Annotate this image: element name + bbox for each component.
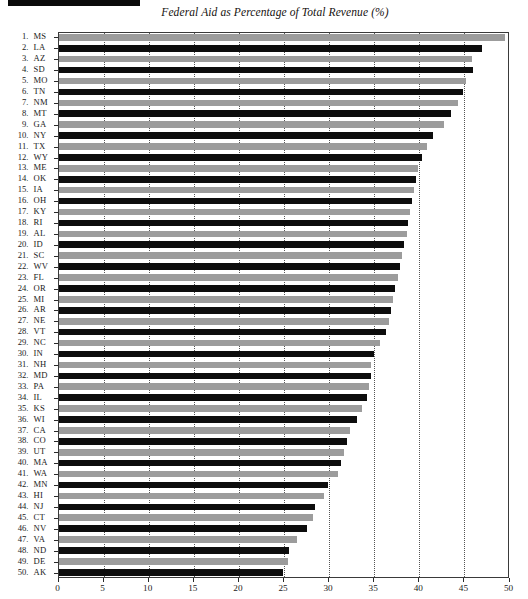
state-abbr-label: CA <box>34 425 58 435</box>
bar-row <box>59 251 510 260</box>
rank-label: 13. <box>12 162 29 172</box>
rank-label: 49. <box>12 556 29 566</box>
x-tick-label-35: 35 <box>369 583 378 593</box>
y-axis-tick-KS: 35.KS <box>0 403 58 412</box>
y-axis-tick-CA: 37.CA <box>0 425 58 434</box>
y-axis-tick-VA: 47.VA <box>0 534 58 543</box>
bar-row <box>59 393 510 402</box>
state-abbr-label: WI <box>34 414 58 424</box>
bar-MS <box>59 34 505 41</box>
rank-label: 34. <box>12 392 29 402</box>
bar-OH <box>59 198 413 205</box>
bar-row <box>59 208 510 217</box>
x-tick-label-25: 25 <box>278 583 287 593</box>
x-tick-label-30: 30 <box>324 583 333 593</box>
rank-label: 38. <box>12 435 29 445</box>
state-abbr-label: WV <box>34 261 58 271</box>
rank-label: 46. <box>12 523 29 533</box>
bar-row <box>59 546 510 555</box>
rank-label: 9. <box>12 119 29 129</box>
state-abbr-label: MA <box>34 457 58 467</box>
rank-label: 33. <box>12 381 29 391</box>
y-axis-tick-AL: 19.AL <box>0 229 58 238</box>
bar-CO <box>59 438 348 445</box>
bar-row <box>59 66 510 75</box>
bar-VA <box>59 536 297 543</box>
bar-row <box>59 459 510 468</box>
bar-IL <box>59 394 367 401</box>
rank-label: 2. <box>12 42 29 52</box>
y-axis-tick-DE: 49.DE <box>0 556 58 565</box>
bar-row <box>59 382 510 391</box>
y-axis-tick-TN: 6.TN <box>0 87 58 96</box>
y-axis-tick-NH: 31.NH <box>0 360 58 369</box>
bar-NH <box>59 362 372 369</box>
state-abbr-label: OK <box>34 173 58 183</box>
y-axis-tick-TX: 11.TX <box>0 141 58 150</box>
rank-label: 1. <box>12 31 29 41</box>
y-axis-tick-ME: 13.ME <box>0 163 58 172</box>
y-axis-tick-NY: 10.NY <box>0 130 58 139</box>
rank-label: 21. <box>12 250 29 260</box>
bar-PA <box>59 383 369 390</box>
state-abbr-label: MI <box>34 294 58 304</box>
x-tick-label-45: 45 <box>459 583 468 593</box>
rank-label: 7. <box>12 97 29 107</box>
state-abbr-label: MS <box>34 31 58 41</box>
rank-label: 47. <box>12 534 29 544</box>
y-axis-tick-GA: 9.GA <box>0 119 58 128</box>
bar-TX <box>59 143 427 150</box>
bar-NJ <box>59 504 315 511</box>
bar-row <box>59 55 510 64</box>
state-abbr-label: IN <box>34 348 58 358</box>
state-abbr-label: SC <box>34 250 58 260</box>
state-abbr-label: NJ <box>34 501 58 511</box>
plot-area <box>58 32 509 578</box>
rank-label: 36. <box>12 414 29 424</box>
bar-row <box>59 404 510 413</box>
rank-label: 15. <box>12 184 29 194</box>
bar-row <box>59 262 510 271</box>
x-tick-50 <box>509 578 510 582</box>
bar-DE <box>59 558 288 565</box>
x-tick-label-20: 20 <box>233 583 242 593</box>
state-abbr-label: VA <box>34 534 58 544</box>
rank-label: 28. <box>12 326 29 336</box>
state-abbr-label: ND <box>34 545 58 555</box>
x-tick-label-40: 40 <box>414 583 423 593</box>
bar-row <box>59 197 510 206</box>
bar-AL <box>59 231 407 238</box>
bar-MD <box>59 373 371 380</box>
bar-NY <box>59 132 433 139</box>
rank-label: 10. <box>12 130 29 140</box>
bar-ID <box>59 241 404 248</box>
state-abbr-label: NM <box>34 97 58 107</box>
rank-label: 23. <box>12 272 29 282</box>
rank-label: 4. <box>12 64 29 74</box>
x-tick-10 <box>148 578 149 582</box>
state-abbr-label: ME <box>34 162 58 172</box>
bar-row <box>59 415 510 424</box>
x-tick-35 <box>373 578 374 582</box>
bar-MI <box>59 296 394 303</box>
y-axis-tick-NM: 7.NM <box>0 98 58 107</box>
state-abbr-label: MN <box>34 479 58 489</box>
state-abbr-label: DE <box>34 556 58 566</box>
bar-row <box>59 186 510 195</box>
y-axis-tick-PA: 33.PA <box>0 381 58 390</box>
bar-IA <box>59 187 414 194</box>
bar-row <box>59 142 510 151</box>
bar-CA <box>59 427 350 434</box>
bar-SD <box>59 67 474 74</box>
y-axis-tick-AK: 50.AK <box>0 567 58 576</box>
rank-label: 16. <box>12 195 29 205</box>
x-tick-30 <box>328 578 329 582</box>
bar-SC <box>59 252 403 259</box>
state-abbr-label: AK <box>34 567 58 577</box>
bar-TN <box>59 89 463 96</box>
state-abbr-label: OH <box>34 195 58 205</box>
y-axis-labels: 1.MS2.LA3.AZ4.SD5.MO6.TN7.NM8.MT9.GA10.N… <box>0 32 58 578</box>
x-axis: 05101520253035404550 <box>58 578 509 599</box>
state-abbr-label: GA <box>34 119 58 129</box>
bar-row <box>59 448 510 457</box>
